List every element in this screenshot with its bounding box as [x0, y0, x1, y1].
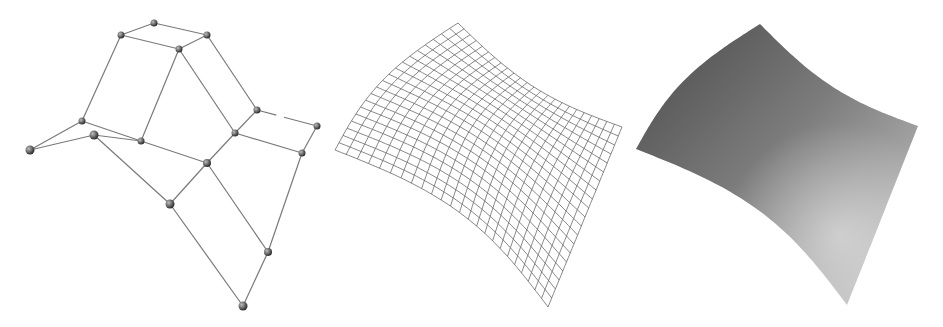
- wireframe-isoline-u: [522, 116, 592, 273]
- wireframe-isoline-u: [535, 121, 607, 289]
- wireframe-isoline-u: [460, 87, 535, 213]
- control-net-edges: [30, 23, 317, 306]
- wireframe-isoline-v: [450, 28, 619, 136]
- wireframe-isoline-u: [528, 119, 599, 282]
- control-point: [166, 200, 175, 209]
- control-point: [90, 131, 99, 140]
- control-net-edge: [94, 135, 170, 204]
- wireframe-isoline-u: [411, 63, 501, 183]
- control-net-edge: [257, 110, 317, 126]
- control-net-edge: [235, 133, 302, 153]
- wireframe-isoline-u: [477, 95, 548, 226]
- control-net-edge: [207, 133, 235, 163]
- control-net-edge: [30, 121, 82, 150]
- wireframe-isoline-u: [380, 46, 483, 168]
- wireframe-isoline-v: [425, 45, 607, 163]
- control-net-edge: [235, 110, 257, 133]
- surface-figure: [0, 0, 943, 327]
- control-net-edge: [141, 141, 207, 163]
- control-net-edge: [179, 35, 207, 49]
- control-net-edge: [30, 135, 94, 150]
- wireframe-isoline-u: [401, 58, 495, 178]
- control-net-edge: [207, 163, 268, 252]
- control-point: [299, 150, 306, 157]
- control-net-edge: [179, 49, 235, 133]
- shaded-surface-panel: [636, 24, 918, 305]
- control-net-edge: [121, 35, 179, 49]
- wireframe-isoline-u: [468, 91, 541, 219]
- shaded-surface-highlight: [636, 24, 918, 305]
- figure-canvas: [0, 0, 943, 327]
- wireframe-isoline-u: [422, 68, 508, 188]
- control-point: [118, 32, 125, 39]
- wireframe-isoline-v: [335, 150, 548, 307]
- wireframe-surface-panel: [335, 23, 622, 307]
- control-point: [264, 248, 272, 256]
- control-net-panel: [26, 20, 321, 311]
- wireframe-isoline-u: [346, 29, 464, 155]
- control-point: [203, 159, 211, 167]
- control-net-edge: [243, 252, 268, 306]
- control-point: [239, 302, 248, 311]
- control-net-edge: [302, 126, 317, 153]
- control-net-edge: [82, 35, 121, 121]
- control-net-edge: [170, 204, 243, 306]
- control-point: [151, 20, 158, 27]
- wireframe-isoline-u: [390, 52, 488, 173]
- control-point: [232, 130, 239, 137]
- wireframe-isoline-v: [433, 39, 611, 154]
- control-point: [176, 46, 183, 53]
- control-point: [138, 138, 145, 145]
- control-net-edge: [154, 23, 207, 35]
- control-net-edge: [268, 153, 302, 252]
- control-point: [314, 123, 321, 130]
- control-net-edge: [121, 23, 154, 35]
- control-net-edge: [170, 163, 207, 204]
- control-point: [254, 107, 261, 114]
- control-point: [204, 32, 211, 39]
- wireframe-isoline-v: [351, 121, 562, 271]
- control-net-edge: [141, 49, 179, 141]
- control-point: [79, 118, 86, 125]
- control-net-edge: [207, 35, 257, 110]
- wireframe-isoline-v: [410, 56, 600, 181]
- control-point: [26, 146, 35, 155]
